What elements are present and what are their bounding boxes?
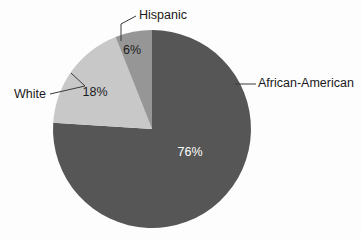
callout-label-white: White — [14, 87, 46, 101]
slice-value-white: 18% — [82, 85, 107, 99]
pie-chart-figure: Hispanic White African-American 76% 18% … — [0, 0, 361, 239]
callout-label-hispanic: Hispanic — [139, 8, 187, 22]
pie-chart-svg: Hispanic White African-American 76% 18% … — [0, 0, 361, 239]
callout-label-african-american: African-American — [258, 76, 354, 90]
slice-value-hispanic: 6% — [123, 43, 141, 57]
slice-value-african-american: 76% — [177, 145, 202, 159]
